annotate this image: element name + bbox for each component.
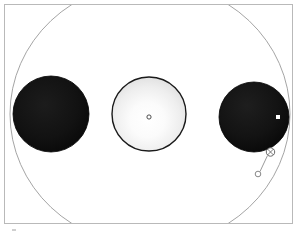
diagram-canvas [0, 0, 300, 235]
small-circle-marker[interactable] [255, 171, 261, 177]
white-square-marker [276, 115, 280, 119]
center-light-sphere[interactable] [112, 77, 186, 151]
connector-line [260, 156, 268, 172]
diagram-svg [0, 0, 300, 235]
center-point-marker [147, 115, 151, 119]
corner-speck [12, 229, 16, 231]
bodies-group [13, 76, 289, 152]
left-dark-sphere[interactable] [13, 76, 89, 152]
